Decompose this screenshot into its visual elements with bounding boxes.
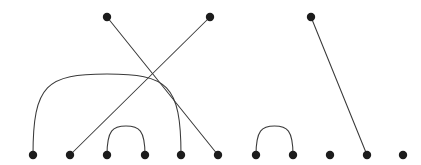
- edge-arc: [256, 126, 293, 155]
- node-dot: [177, 151, 185, 159]
- edge-straight: [107, 17, 218, 155]
- diagram-canvas: [0, 0, 421, 165]
- node-dot: [103, 13, 111, 21]
- edge-arc: [33, 74, 181, 155]
- edge-straight: [70, 17, 210, 155]
- node-dot: [214, 151, 222, 159]
- node-dot: [206, 13, 214, 21]
- node-dot: [307, 13, 315, 21]
- node-dot: [363, 151, 371, 159]
- node-dot: [29, 151, 37, 159]
- node-dot: [252, 151, 260, 159]
- edge-arc: [107, 126, 145, 155]
- node-dot: [289, 151, 297, 159]
- edges-layer: [33, 17, 367, 155]
- edge-straight: [311, 17, 367, 155]
- node-dot: [103, 151, 111, 159]
- node-dot: [326, 151, 334, 159]
- node-dot: [399, 151, 407, 159]
- diagram-svg: [0, 0, 421, 165]
- nodes-layer: [29, 13, 407, 159]
- node-dot: [141, 151, 149, 159]
- node-dot: [66, 151, 74, 159]
